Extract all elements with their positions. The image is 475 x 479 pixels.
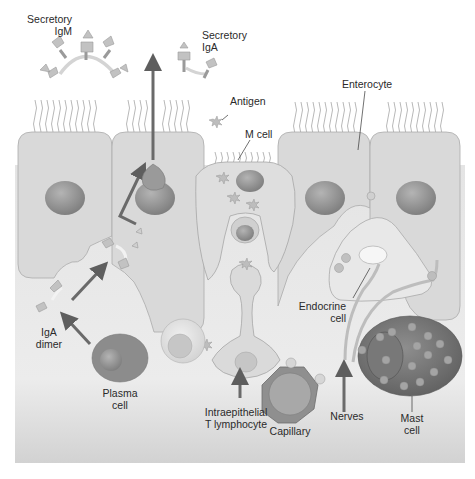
label-capillary: Capillary xyxy=(258,425,322,437)
label-endocrine-cell: Endocrine cell xyxy=(270,300,346,324)
label-iga-dimer: IgA dimer xyxy=(30,326,68,350)
label-secretory-iga: Secretory IgA xyxy=(202,29,247,53)
label-secretory-igm: Secretory IgM xyxy=(6,13,72,37)
label-mast-cell: Mast cell xyxy=(396,412,428,436)
endocrine-cell-nucleus xyxy=(359,246,387,264)
secretory-igm-molecule xyxy=(40,30,128,78)
label-antigen: Antigen xyxy=(230,95,266,107)
label-plasma-cell: Plasma cell xyxy=(96,387,144,411)
label-enterocyte: Enterocyte xyxy=(342,78,392,90)
label-nerves: Nerves xyxy=(326,410,368,422)
m-cell-nucleus xyxy=(236,170,264,192)
label-m-cell: M cell xyxy=(245,128,272,140)
plasma-cell-nucleus xyxy=(100,349,122,371)
